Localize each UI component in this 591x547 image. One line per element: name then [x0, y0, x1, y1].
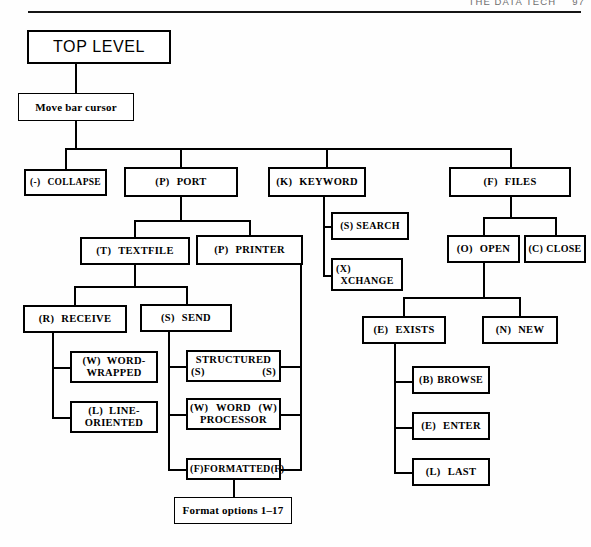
node-structured-keys: (S) (S)	[188, 366, 279, 378]
edge-bus-keyword	[326, 148, 328, 167]
edge-receive-wordwrapped	[52, 367, 71, 369]
edge-textfile-split	[74, 286, 187, 288]
edge-bus	[65, 148, 511, 150]
edge-printer-structured	[280, 366, 301, 368]
edge-open-down	[483, 263, 485, 298]
node-format-options[interactable]: Format options 1–17	[174, 497, 292, 524]
node-xchange-key: (X)	[333, 263, 401, 274]
edge-send-formatted	[168, 469, 187, 471]
edge-open-split	[403, 297, 520, 299]
node-textfile-label: TEXTFILE	[118, 245, 174, 256]
node-keyword-key: (K)	[276, 176, 292, 187]
edge-send-wordprocessor	[168, 414, 187, 416]
edge-movebar-bus	[75, 121, 77, 149]
node-word-processor-line1: (W) WORD (W)	[188, 402, 279, 414]
node-files-label: FILES	[505, 176, 537, 187]
node-open-key: (O)	[457, 243, 473, 254]
node-browse-text: (B)BROWSE	[419, 374, 483, 385]
node-structured[interactable]: STRUCTURED (S) (S)	[186, 350, 281, 382]
node-browse[interactable]: (B)BROWSE	[412, 366, 490, 394]
node-word-processor-label2: PROCESSOR	[188, 414, 279, 426]
edge-open-new	[519, 297, 521, 316]
node-close-text: (C)CLOSE	[528, 243, 581, 254]
edge-textfile-receive	[74, 286, 76, 305]
node-line-oriented-label2: ORIENTED	[72, 417, 156, 429]
node-open[interactable]: (O)OPEN	[447, 235, 520, 263]
node-line-oriented[interactable]: (L)LINE- ORIENTED	[70, 401, 158, 433]
running-head: THE DATA TECH97	[469, 0, 585, 8]
node-keyword-text: (K)KEYWORD	[276, 176, 358, 188]
node-printer-key: (P)	[214, 244, 228, 255]
node-receive-text: (R)RECEIVE	[39, 313, 111, 325]
node-printer[interactable]: (P)PRINTER	[196, 235, 303, 265]
edge-port-down	[180, 197, 182, 221]
node-formatted-key-right: (F)	[271, 463, 285, 474]
node-top-level[interactable]: TOP LEVEL	[27, 30, 171, 64]
edge-open-exists	[403, 297, 405, 316]
edge-toplevel-movebar	[75, 64, 77, 93]
node-send[interactable]: (S)SEND	[140, 304, 232, 332]
node-last[interactable]: (L)LAST	[412, 458, 490, 486]
edge-files-down	[510, 197, 512, 218]
node-files[interactable]: (F)FILES	[449, 167, 571, 197]
node-new-label: NEW	[518, 324, 544, 335]
node-xchange[interactable]: (X) XCHANGE	[331, 258, 403, 291]
node-enter-text: (E)ENTER	[421, 420, 481, 432]
node-collapse-key: (-)	[30, 177, 40, 187]
node-textfile-key: (T)	[96, 245, 111, 256]
node-enter-key: (E)	[421, 420, 436, 431]
node-word-wrapped[interactable]: (W)WORD- WRAPPED	[70, 351, 158, 383]
node-line-oriented-line1: (L)LINE-	[72, 405, 156, 417]
node-close[interactable]: (C)CLOSE	[524, 235, 586, 263]
node-move-bar-cursor[interactable]: Move bar cursor	[18, 93, 134, 121]
node-textfile[interactable]: (T)TEXTFILE	[80, 237, 190, 265]
node-enter-label: ENTER	[443, 420, 481, 431]
edge-exists-rail	[394, 344, 396, 473]
node-formatted[interactable]: (F) FORMATTED (F)	[186, 458, 281, 480]
node-formatted-key-left: (F)	[190, 463, 204, 474]
node-last-text: (L)LAST	[426, 466, 477, 478]
node-line-oriented-label1: LINE-	[109, 405, 140, 416]
node-close-key: (C)	[528, 243, 543, 254]
node-word-processor-key-right: (W)	[259, 402, 277, 414]
edge-formatted-formatoptions	[233, 480, 235, 497]
edge-exists-enter	[394, 427, 413, 429]
node-open-label: OPEN	[480, 243, 510, 254]
node-formatted-label: FORMATTED	[204, 463, 271, 474]
edge-bus-port	[180, 148, 182, 167]
node-word-processor[interactable]: (W) WORD (W) PROCESSOR	[186, 398, 281, 430]
node-collapse[interactable]: (-)COLLAPSE	[24, 169, 107, 196]
node-search-key: (S)	[340, 220, 353, 231]
running-head-title: THE DATA TECH	[469, 0, 557, 7]
node-word-wrapped-label1: WORD-	[107, 355, 146, 366]
node-format-options-label: Format options 1–17	[183, 504, 284, 516]
node-enter[interactable]: (E)ENTER	[412, 412, 490, 440]
node-word-wrapped-label2: WRAPPED	[72, 367, 156, 379]
node-port-label: PORT	[177, 176, 207, 187]
node-receive-label: RECEIVE	[61, 313, 111, 324]
edge-printer-wordprocessor	[280, 414, 301, 416]
node-files-key: (F)	[483, 176, 497, 187]
edge-port-split	[134, 220, 250, 222]
node-keyword[interactable]: (K)KEYWORD	[268, 167, 366, 197]
edge-files-split	[483, 217, 556, 219]
edge-send-rail	[168, 332, 170, 471]
edge-textfile-down	[134, 265, 136, 287]
node-port-key: (P)	[155, 176, 169, 187]
node-structured-label: STRUCTURED	[188, 354, 279, 366]
node-send-key: (S)	[161, 312, 175, 323]
node-move-bar-cursor-label: Move bar cursor	[35, 101, 117, 113]
diagram-page: THE DATA TECH97	[0, 0, 591, 547]
node-search[interactable]: (S)SEARCH	[331, 212, 409, 240]
node-send-label: SEND	[182, 312, 211, 323]
node-port[interactable]: (P)PORT	[124, 167, 238, 197]
node-exists[interactable]: (E)EXISTS	[362, 316, 446, 344]
node-new[interactable]: (N)NEW	[482, 316, 558, 344]
edge-receive-rail	[52, 333, 54, 419]
node-close-label: CLOSE	[546, 243, 581, 254]
edge-files-open	[483, 217, 485, 235]
node-port-text: (P)PORT	[155, 176, 206, 188]
node-top-level-label: TOP LEVEL	[53, 38, 145, 56]
node-receive[interactable]: (R)RECEIVE	[23, 305, 127, 333]
node-line-oriented-key: (L)	[88, 405, 103, 416]
